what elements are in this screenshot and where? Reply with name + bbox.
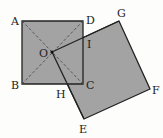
label-i: I [87, 38, 91, 51]
label-f: F [152, 84, 160, 97]
label-h: H [56, 88, 66, 101]
label-g: G [117, 7, 126, 20]
label-e: E [79, 123, 87, 136]
label-d: D [86, 14, 95, 27]
geometry-diagram: A D I O B C H G F E [0, 0, 163, 138]
label-c: C [86, 79, 94, 92]
label-a: A [10, 15, 20, 28]
label-o: O [39, 47, 48, 60]
label-b: B [11, 79, 19, 92]
point-o [50, 50, 53, 53]
